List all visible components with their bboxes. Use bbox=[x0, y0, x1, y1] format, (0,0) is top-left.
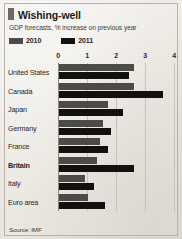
category-label-italy: Italy bbox=[8, 179, 20, 188]
bar-2010-canada bbox=[59, 83, 134, 90]
category-label-canada: Canada bbox=[8, 86, 32, 95]
x-tick-3: 3 bbox=[143, 52, 147, 59]
bar-row: France bbox=[8, 137, 174, 156]
bar-2011-germany bbox=[59, 128, 111, 135]
bar-2011-italy bbox=[59, 183, 94, 190]
x-axis-ticks: 01234 bbox=[8, 52, 174, 63]
x-tick-4: 4 bbox=[172, 52, 176, 59]
bar-2011-euro-area bbox=[59, 202, 105, 209]
bar-row: Italy bbox=[8, 174, 174, 193]
legend-item-2010: 2010 bbox=[9, 37, 41, 44]
legend-label-2011: 2011 bbox=[78, 37, 93, 44]
bar-2010-britain bbox=[59, 157, 97, 164]
bar-2010-germany bbox=[59, 120, 103, 127]
chart-legend: 2010 2011 bbox=[9, 37, 93, 44]
bar-2010-japan bbox=[59, 101, 108, 108]
legend-swatch-2010 bbox=[9, 38, 23, 44]
bar-2010-france bbox=[59, 138, 100, 145]
category-label-france: France bbox=[8, 142, 29, 151]
bar-row: United States bbox=[8, 63, 174, 82]
bar-row: Japan bbox=[8, 100, 174, 119]
bar-rows: United StatesCanadaJapanGermanyFranceBri… bbox=[8, 63, 174, 211]
bar-2011-canada bbox=[59, 91, 163, 98]
gridline-4 bbox=[174, 63, 175, 211]
bar-2011-britain bbox=[59, 165, 134, 172]
x-tick-1: 1 bbox=[85, 52, 89, 59]
legend-swatch-2011 bbox=[61, 38, 75, 44]
plot-area: 01234 United StatesCanadaJapanGermanyFra… bbox=[8, 52, 174, 224]
bar-row: Euro area bbox=[8, 193, 174, 212]
legend-label-2010: 2010 bbox=[26, 37, 41, 44]
x-tick-0: 0 bbox=[56, 52, 60, 59]
bar-2010-italy bbox=[59, 175, 85, 182]
bar-2011-united-states bbox=[59, 72, 129, 79]
chart-figure: Wishing-well GDP forecasts, % increase o… bbox=[0, 0, 182, 239]
chart-source: Source: IMF bbox=[9, 226, 42, 233]
category-label-united-states: United States bbox=[8, 68, 49, 77]
chart-title: Wishing-well bbox=[18, 9, 81, 21]
bar-row: Britain bbox=[8, 156, 174, 175]
bar-2011-france bbox=[59, 146, 108, 153]
category-label-euro-area: Euro area bbox=[8, 197, 38, 206]
bar-2011-japan bbox=[59, 109, 123, 116]
bar-2010-united-states bbox=[59, 64, 134, 71]
x-tick-2: 2 bbox=[114, 52, 118, 59]
bar-row: Canada bbox=[8, 82, 174, 101]
category-label-germany: Germany bbox=[8, 123, 37, 132]
category-label-japan: Japan bbox=[8, 105, 27, 114]
legend-item-2011: 2011 bbox=[61, 37, 93, 44]
category-label-britain: Britain bbox=[8, 160, 30, 169]
section-marker bbox=[8, 8, 14, 20]
bar-row: Germany bbox=[8, 119, 174, 138]
chart-subtitle: GDP forecasts, % increase on previous ye… bbox=[9, 24, 137, 31]
bar-2010-euro-area bbox=[59, 194, 88, 201]
